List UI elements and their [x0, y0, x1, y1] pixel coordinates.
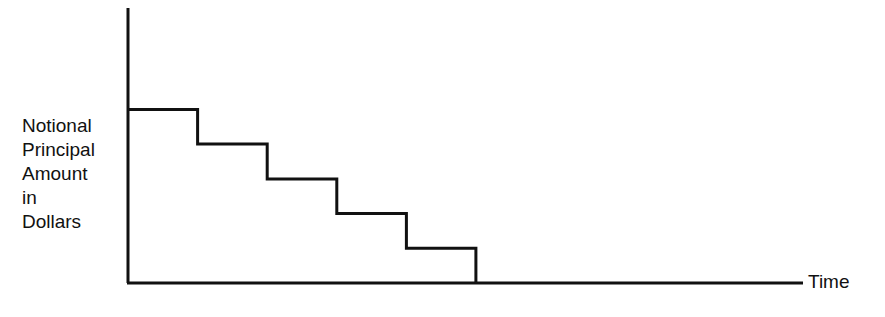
- y-axis-label-line: Notional: [22, 114, 95, 138]
- y-axis-label-line: in: [22, 186, 95, 210]
- step-chart: [0, 0, 885, 317]
- notional-step-line: [128, 109, 476, 283]
- x-axis-label: Time: [808, 270, 850, 294]
- y-axis-label-line: Dollars: [22, 210, 95, 234]
- y-axis-label-line: Amount: [22, 162, 95, 186]
- y-axis-label: Notional Principal Amount in Dollars: [22, 114, 95, 234]
- y-axis-label-line: Principal: [22, 138, 95, 162]
